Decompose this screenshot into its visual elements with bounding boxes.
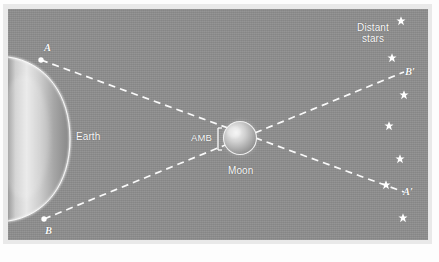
star <box>398 213 407 222</box>
moon-body <box>219 117 261 159</box>
point-b-marker <box>41 216 46 221</box>
label-point-b: B <box>45 225 52 236</box>
star <box>387 53 396 62</box>
label-earth: Earth <box>76 131 100 142</box>
parallax-figure: A B A′ B′ Earth Moon AMB Distant stars <box>0 0 439 262</box>
label-point-a-prime: A′ <box>403 186 413 197</box>
point-a-marker <box>38 57 43 62</box>
sight-line-a-aprime <box>41 60 404 192</box>
label-amb: AMB <box>191 132 212 143</box>
label-point-a: A <box>44 42 51 53</box>
label-distant-stars: Distant stars <box>347 22 399 44</box>
earth-body <box>0 57 70 221</box>
label-moon: Moon <box>228 165 253 176</box>
star <box>399 90 408 99</box>
label-point-b-prime: B′ <box>405 66 415 77</box>
star <box>395 154 404 163</box>
star <box>384 121 393 130</box>
